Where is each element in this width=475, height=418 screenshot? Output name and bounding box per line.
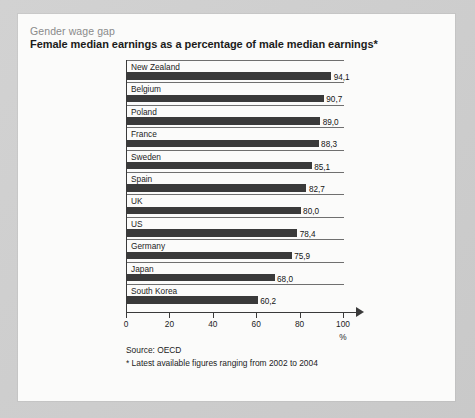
chart-row: South Korea60,2 <box>127 284 344 306</box>
bar-value-label: 82,7 <box>306 185 324 194</box>
chart-row: Sweden85,1 <box>127 150 344 172</box>
bar-value-label: 68,0 <box>275 275 293 284</box>
x-axis-tick-label: 80 <box>295 319 304 329</box>
chart-row: Japan68,0 <box>127 262 344 284</box>
bar-value-label: 75,9 <box>292 252 310 261</box>
bar-value-label: 89,0 <box>320 118 338 127</box>
x-axis-tick <box>343 313 344 318</box>
footnote: * Latest available figures ranging from … <box>126 357 318 370</box>
category-label: Belgium <box>131 84 161 94</box>
x-axis-tick <box>213 313 214 318</box>
bar <box>127 252 292 259</box>
x-axis-unit-label: % <box>339 332 346 342</box>
bar <box>127 95 324 102</box>
x-axis-tick <box>256 313 257 318</box>
chart-row: France88,3 <box>127 127 344 149</box>
category-label: Poland <box>131 107 157 117</box>
x-axis-tick <box>126 313 127 318</box>
bar-value-label: 78,4 <box>297 230 315 239</box>
page-background: Gender wage gap Female median earnings a… <box>0 0 475 418</box>
chart-headline: Female median earnings as a percentage o… <box>30 38 378 50</box>
x-axis-tick-label: 20 <box>165 319 174 329</box>
chart-row: Belgium90,7 <box>127 82 344 104</box>
x-axis-line <box>126 312 358 313</box>
bar <box>127 296 258 303</box>
bar <box>127 184 306 191</box>
chart-card: Gender wage gap Female median earnings a… <box>18 14 455 401</box>
x-axis-arrow-icon <box>356 307 364 317</box>
x-axis-tick <box>169 313 170 318</box>
chart-kicker: Gender wage gap <box>30 25 115 37</box>
x-axis-tick-label: 0 <box>124 319 129 329</box>
bar-chart: New Zealand94,1Belgium90,7Poland89,0Fran… <box>126 60 366 332</box>
category-label: Spain <box>131 174 152 184</box>
category-label: South Korea <box>131 286 177 296</box>
bar <box>127 162 312 169</box>
source-note: Source: OECD <box>126 344 318 357</box>
chart-notes: Source: OECD * Latest available figures … <box>126 344 318 369</box>
chart-row: Poland89,0 <box>127 105 344 127</box>
bar <box>127 274 275 281</box>
bar <box>127 229 297 236</box>
bar-value-label: 80,0 <box>301 207 319 216</box>
bar <box>127 207 301 214</box>
bar-value-label: 85,1 <box>312 163 330 172</box>
bar <box>127 140 319 147</box>
bar <box>127 117 320 124</box>
category-label: France <box>131 129 157 139</box>
x-axis-tick <box>300 313 301 318</box>
chart-row: Germany75,9 <box>127 239 344 261</box>
bar-value-label: 60,2 <box>258 297 276 306</box>
bar-value-label: 94,1 <box>331 73 349 82</box>
x-axis-tick-label: 40 <box>208 319 217 329</box>
category-label: Germany <box>131 241 165 251</box>
plot-area: New Zealand94,1Belgium90,7Poland89,0Fran… <box>126 60 344 312</box>
bar-value-label: 90,7 <box>324 95 342 104</box>
chart-row: New Zealand94,1 <box>127 60 344 82</box>
category-label: UK <box>131 196 143 206</box>
category-label: New Zealand <box>131 62 180 72</box>
category-label: Sweden <box>131 152 161 162</box>
x-axis-tick-label: 100 <box>336 319 350 329</box>
category-label: US <box>131 219 143 229</box>
category-label: Japan <box>131 264 154 274</box>
chart-row: Spain82,7 <box>127 172 344 194</box>
x-axis-tick-label: 60 <box>252 319 261 329</box>
chart-row: US78,4 <box>127 217 344 239</box>
chart-row: UK80,0 <box>127 194 344 216</box>
bar <box>127 72 331 79</box>
bar-value-label: 88,3 <box>319 140 337 149</box>
